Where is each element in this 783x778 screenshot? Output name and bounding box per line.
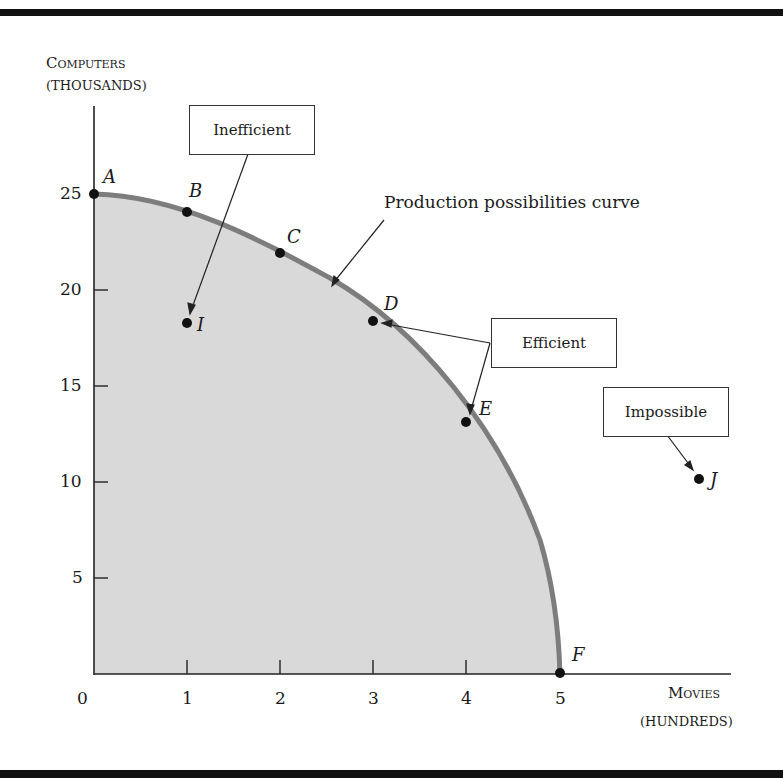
- y-axis-title: Computers: [46, 54, 125, 72]
- y-axis-unit: (THOUSANDS): [46, 78, 147, 93]
- point-a: [89, 189, 99, 199]
- efficient-label: Efficient: [522, 334, 586, 352]
- x-tick-0: 0: [77, 688, 88, 708]
- x-axis-title: Movies: [668, 684, 720, 702]
- x-tick-2: 2: [275, 688, 286, 708]
- point-c: [275, 248, 285, 258]
- y-tick-5: 5: [72, 567, 83, 587]
- x-axis-unit: (HUNDREDS): [640, 714, 733, 729]
- inefficient-box: Inefficient: [189, 105, 315, 155]
- label-c: C: [287, 226, 301, 247]
- curve-label: Production possibilities curve: [384, 192, 640, 212]
- label-i: I: [197, 314, 204, 335]
- point-b: [182, 207, 192, 217]
- x-tick-4: 4: [461, 688, 472, 708]
- label-b: B: [189, 180, 202, 201]
- x-tick-1: 1: [182, 688, 193, 708]
- inefficient-label: Inefficient: [213, 121, 291, 139]
- y-tick-15: 15: [60, 375, 82, 395]
- label-a: A: [103, 166, 116, 187]
- efficient-box: Efficient: [491, 318, 617, 368]
- label-d: D: [384, 293, 398, 314]
- y-tick-20: 20: [60, 279, 82, 299]
- point-i: [182, 318, 192, 328]
- impossible-box: Impossible: [603, 387, 729, 437]
- point-e: [461, 417, 471, 427]
- y-tick-10: 10: [60, 471, 82, 491]
- x-tick-5: 5: [555, 688, 566, 708]
- point-d: [368, 316, 378, 326]
- point-f: [555, 668, 565, 678]
- x-tick-3: 3: [368, 688, 379, 708]
- label-e: E: [479, 398, 492, 419]
- label-f: F: [572, 644, 585, 665]
- label-j: J: [710, 469, 717, 490]
- y-tick-25: 25: [60, 183, 82, 203]
- impossible-label: Impossible: [625, 403, 707, 421]
- point-j: [694, 474, 704, 484]
